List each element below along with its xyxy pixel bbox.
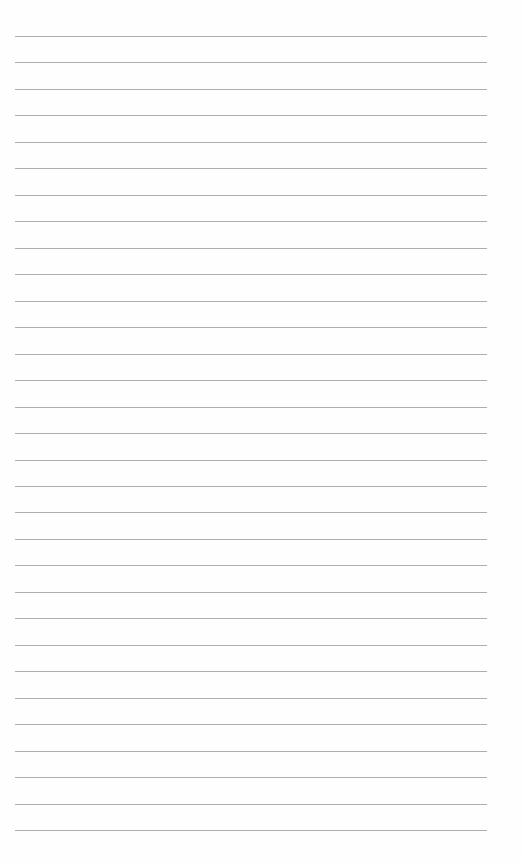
ruled-line [15,221,487,222]
ruled-line [15,618,487,619]
ruled-line [15,777,487,778]
ruled-line [15,36,487,37]
ruled-line [15,142,487,143]
ruled-line [15,354,487,355]
ruled-line [15,195,487,196]
ruled-line [15,380,487,381]
ruled-line [15,671,487,672]
ruled-line [15,115,487,116]
ruled-line [15,645,487,646]
ruled-line [15,698,487,699]
ruled-line [15,565,487,566]
ruled-line [15,460,487,461]
ruled-line [15,724,487,725]
ruled-line [15,592,487,593]
ruled-line [15,62,487,63]
ruled-line [15,539,487,540]
ruled-line [15,274,487,275]
ruled-line [15,168,487,169]
ruled-line [15,407,487,408]
ruled-line [15,433,487,434]
ruled-line [15,301,487,302]
ruled-line [15,89,487,90]
lined-paper-page [0,0,522,863]
ruled-line [15,327,487,328]
ruled-line [15,248,487,249]
ruled-line [15,486,487,487]
ruled-line [15,804,487,805]
ruled-line [15,512,487,513]
ruled-line [15,751,487,752]
ruled-line [15,830,487,831]
